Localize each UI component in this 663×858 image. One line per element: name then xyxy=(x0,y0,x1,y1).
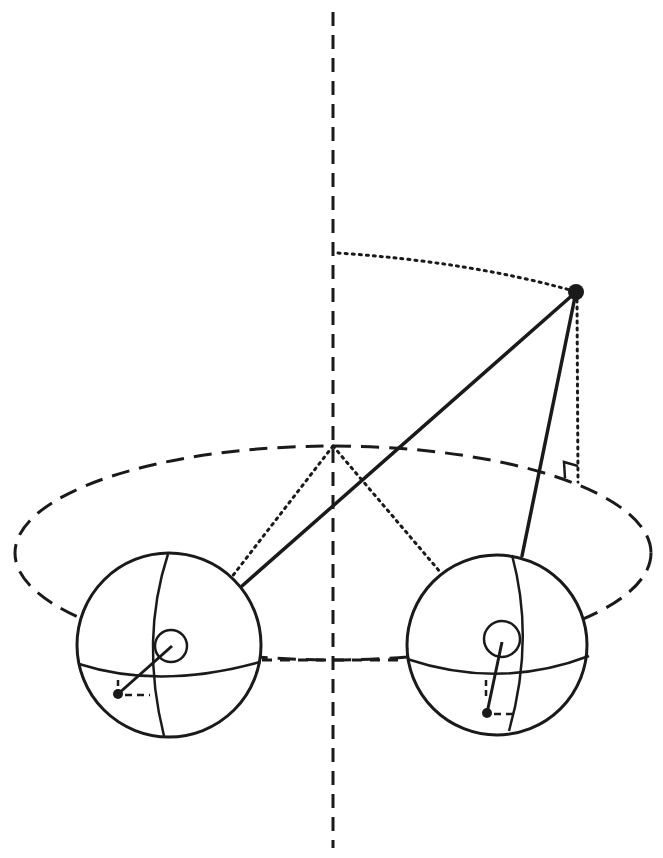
drop-line-dotted xyxy=(577,300,578,482)
sphere-outline xyxy=(77,553,261,737)
spin-dot xyxy=(113,689,123,699)
sphere-right xyxy=(407,555,589,735)
sphere-outline xyxy=(407,555,587,735)
sphere-left xyxy=(77,553,261,737)
apex-point xyxy=(568,284,584,300)
diagram-canvas xyxy=(0,0,663,858)
spin-dot xyxy=(482,708,492,718)
rotating-spheres-diagram xyxy=(0,0,663,858)
